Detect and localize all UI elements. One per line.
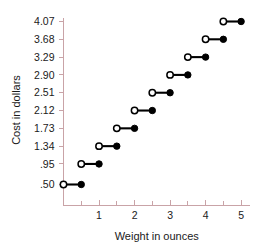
- step-segment: [220, 18, 244, 24]
- closed-circle-marker: [131, 125, 137, 131]
- step-segment: [96, 143, 120, 149]
- step-segment: [131, 107, 155, 113]
- closed-circle-marker: [96, 161, 102, 167]
- step-segment: [78, 161, 102, 167]
- chart-plot-area: .50.951.341.732.122.512.903.293.684.07 1…: [0, 0, 264, 247]
- step-segments: [60, 18, 244, 187]
- y-axis-ticks: [59, 22, 64, 185]
- y-tick-label: 4.07: [34, 15, 55, 27]
- step-segment: [60, 181, 84, 187]
- y-tick-label: 2.12: [34, 104, 55, 116]
- open-circle-marker: [149, 90, 155, 96]
- y-tick-label: 2.51: [34, 86, 55, 98]
- step-segment: [202, 36, 226, 42]
- step-segment: [149, 90, 173, 96]
- closed-circle-marker: [114, 143, 120, 149]
- y-tick-label: 3.29: [34, 51, 55, 63]
- x-tick-label: 1: [96, 209, 102, 221]
- y-tick-label: 1.73: [34, 122, 55, 134]
- open-circle-marker: [185, 54, 191, 60]
- open-circle-marker: [78, 161, 84, 167]
- x-axis-title: Weight in ounces: [115, 230, 200, 242]
- x-tick-label: 4: [203, 209, 209, 221]
- open-circle-marker: [131, 107, 137, 113]
- axes-group: [64, 18, 251, 206]
- y-tick-label: .50: [40, 178, 55, 190]
- closed-circle-marker: [220, 36, 226, 42]
- x-tick-label: 5: [238, 209, 244, 221]
- open-circle-marker: [167, 72, 173, 78]
- step-segment: [114, 125, 138, 131]
- closed-circle-marker: [185, 72, 191, 78]
- closed-circle-marker: [238, 18, 244, 24]
- closed-circle-marker: [167, 90, 173, 96]
- y-axis-title: Cost in dollars: [10, 75, 22, 145]
- x-tick-label: 2: [132, 209, 138, 221]
- x-axis-tick-labels: 12345: [96, 209, 244, 221]
- step-function-chart: .50.951.341.732.122.512.903.293.684.07 1…: [0, 0, 264, 247]
- x-axis-ticks: [81, 200, 241, 206]
- open-circle-marker: [220, 18, 226, 24]
- y-axis-tick-labels: .50.951.341.732.122.512.903.293.684.07: [34, 15, 55, 190]
- open-circle-marker: [114, 125, 120, 131]
- open-circle-marker: [96, 143, 102, 149]
- y-tick-label: 2.90: [34, 69, 55, 81]
- step-segment: [185, 54, 209, 60]
- y-tick-label: .95: [40, 158, 55, 170]
- x-tick-label: 3: [167, 209, 173, 221]
- y-tick-label: 3.68: [34, 33, 55, 45]
- closed-circle-marker: [202, 54, 208, 60]
- closed-circle-marker: [149, 107, 155, 113]
- open-circle-marker: [202, 36, 208, 42]
- closed-circle-marker: [78, 181, 84, 187]
- y-tick-label: 1.34: [34, 140, 55, 152]
- step-segment: [167, 72, 191, 78]
- open-circle-marker: [60, 181, 66, 187]
